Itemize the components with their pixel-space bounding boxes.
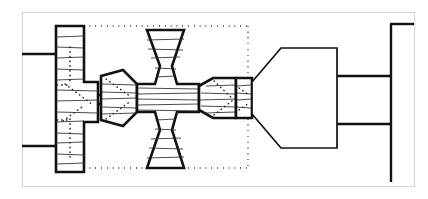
coupling-block bbox=[101, 70, 137, 126]
right-taper-block bbox=[199, 78, 236, 118]
seal-collar-outline bbox=[236, 78, 252, 118]
technical-drawing-figure bbox=[0, 0, 428, 199]
seal-collar bbox=[236, 78, 252, 118]
cross-section-canvas bbox=[0, 0, 428, 199]
